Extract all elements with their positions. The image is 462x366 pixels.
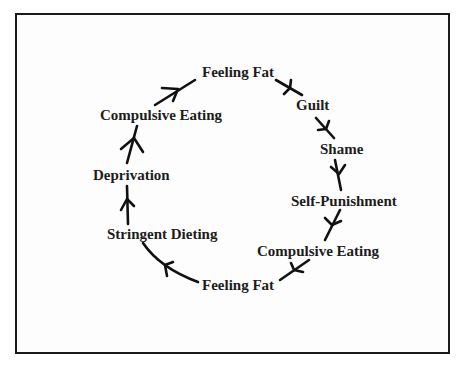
arrow-feeling-fat-to-stringent-dieting bbox=[143, 243, 198, 282]
node-feeling-fat-top: Feeling Fat bbox=[202, 64, 274, 80]
arrow-feeling-fat-to-guilt bbox=[276, 80, 302, 95]
cycle-arrows bbox=[0, 0, 462, 366]
node-compulsive-eating-left: Compulsive Eating bbox=[100, 107, 222, 123]
arrow-compulsive-eating-to-feeling-fat bbox=[280, 260, 309, 280]
arrow-guilt-to-shame bbox=[316, 118, 334, 138]
node-feeling-fat-bottom: Feeling Fat bbox=[202, 277, 274, 293]
arrow-stringent-dieting-to-deprivation bbox=[121, 186, 134, 224]
node-guilt: Guilt bbox=[296, 97, 329, 113]
arrow-deprivation-to-compulsive-eating bbox=[121, 126, 143, 163]
node-shame: Shame bbox=[320, 141, 363, 157]
node-self-punishment: Self-Punishment bbox=[291, 193, 397, 209]
node-deprivation: Deprivation bbox=[93, 167, 170, 183]
node-compulsive-eating-right: Compulsive Eating bbox=[257, 243, 379, 259]
arrow-compulsive-eating-to-feeling-fat-top bbox=[155, 80, 195, 105]
arrow-shame-to-self-punishment bbox=[331, 160, 345, 190]
node-stringent-dieting: Stringent Dieting bbox=[107, 226, 217, 242]
arrow-self-punishment-to-compulsive-eating bbox=[325, 210, 341, 240]
